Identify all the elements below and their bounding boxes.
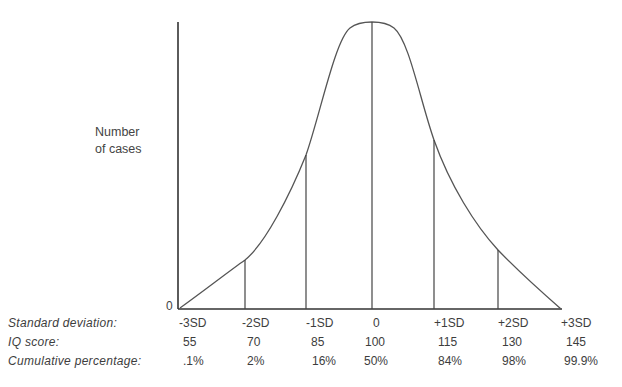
- sd-cell: -2SD: [242, 316, 269, 330]
- y-axis-label-line1: Number: [95, 124, 142, 141]
- iq-cell: 145: [566, 335, 586, 349]
- cumulative-cell: 16%: [312, 354, 336, 368]
- iq-cell: 115: [438, 335, 457, 349]
- iq-cell: 70: [247, 335, 260, 349]
- cumulative-cell: 99.9%: [564, 354, 598, 368]
- sd-cell: -3SD: [179, 316, 206, 330]
- iq-cell: 130: [502, 335, 522, 349]
- y-axis-label: Number of cases: [95, 124, 142, 158]
- normal-curve: [180, 22, 561, 309]
- sd-cell: +2SD: [498, 316, 528, 330]
- row-label-sd: Standard deviation:: [8, 316, 117, 330]
- cumulative-cell: 98%: [502, 354, 526, 368]
- y-axis-label-line2: of cases: [95, 141, 142, 158]
- cumulative-cell: 2%: [247, 354, 264, 368]
- iq-cell: 100: [365, 335, 385, 349]
- sd-cell: +3SD: [561, 316, 591, 330]
- sd-cell: -1SD: [306, 316, 333, 330]
- iq-cell: 55: [183, 335, 196, 349]
- sd-cell: 0: [373, 316, 380, 330]
- row-label-cumulative: Cumulative percentage:: [8, 354, 141, 368]
- cumulative-cell: 50%: [364, 354, 388, 368]
- y-origin-label: 0: [166, 299, 173, 313]
- cumulative-cell: .1%: [183, 354, 204, 368]
- sd-cell: +1SD: [434, 316, 464, 330]
- iq-cell: 85: [311, 335, 324, 349]
- cumulative-cell: 84%: [438, 354, 462, 368]
- row-label-iq: IQ score:: [8, 335, 59, 349]
